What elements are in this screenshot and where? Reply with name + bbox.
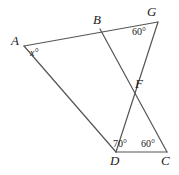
segments-group (24, 22, 167, 152)
vertex-label-D: D (110, 154, 119, 167)
angle-label-x-at-A: x° (30, 48, 38, 58)
vertex-label-F: F (135, 77, 143, 90)
segment-A-D (24, 46, 116, 152)
angle-label-70-at-D: 70° (113, 139, 127, 149)
angle-label-60-at-G: 60° (132, 27, 146, 37)
vertex-label-G: G (147, 5, 156, 18)
segment-B-C (100, 29, 167, 152)
vertex-label-A: A (11, 34, 19, 47)
vertex-label-B: B (93, 13, 101, 26)
vertex-label-C: C (161, 154, 170, 167)
geometry-diagram: A B G F D C x° 60° 70° 60° (0, 0, 179, 175)
angle-label-60-at-C: 60° (141, 139, 155, 149)
